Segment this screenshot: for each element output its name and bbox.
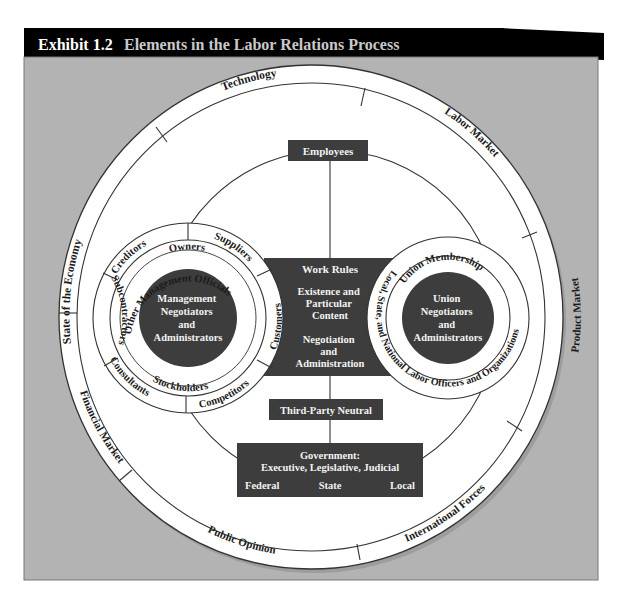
third-party-neutral-box: Third-Party Neutral [269, 399, 383, 420]
union-cluster: Union Membership Local, State, and Natio… [367, 237, 529, 399]
labor-relations-diagram: Exhibit 1.2 Elements in the Labor Relati… [0, 0, 625, 605]
exhibit-header: Exhibit 1.2 Elements in the Labor Relati… [24, 28, 604, 60]
exhibit-number: Exhibit 1.2 [38, 36, 113, 53]
employees-box: Employees [288, 140, 368, 161]
work-rules-title: Work Rules [302, 263, 359, 275]
employees-label: Employees [303, 145, 354, 157]
government-box: Government: Executive, Legislative, Judi… [237, 443, 423, 497]
union-core [402, 272, 494, 364]
government-title: Government: [300, 450, 360, 461]
government-branches: Executive, Legislative, Judicial [261, 462, 399, 473]
exhibit-header-bar-tail [500, 28, 604, 60]
third-party-neutral-label: Third-Party Neutral [280, 405, 372, 416]
government-level-local: Local [390, 480, 415, 491]
government-level-federal: Federal [245, 480, 279, 491]
management-cluster: Creditors Suppliers Customers Competitor… [93, 223, 284, 413]
exhibit-title: Elements in the Labor Relations Process [124, 36, 399, 53]
government-level-state: State [319, 480, 342, 491]
